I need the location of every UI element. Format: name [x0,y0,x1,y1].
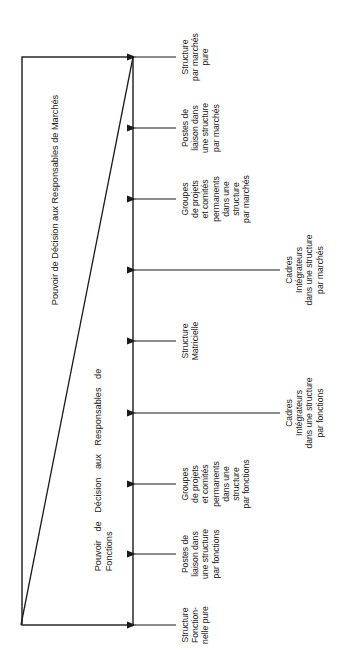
heading-functions: Pouvoir de Décision aux Responsables de … [93,369,115,572]
label-cadres-integrateurs-fonctions: Cadres Intégrateurs dans une structure p… [284,377,325,448]
decision-power-diagram: Pouvoir de Décision aux Responsables de … [0,0,341,672]
label-postes-liaison-marches: Postes de liaison dans une structure par… [180,103,221,153]
label-groupes-projets-marches: Groupes de projets et comités permanents… [180,175,251,223]
label-cadres-integrateurs-marches: Cadres Intégrateurs dans une structure p… [284,234,325,305]
label-groupes-projets-fonctions: Groupes de projets et comités permanents… [180,459,251,508]
label-postes-liaison-fonctions: Postes de liaison dans une structure par… [180,529,221,579]
label-structure-matricielle: Structure Matricielle [180,322,200,361]
diagonal-line [21,57,133,625]
label-structure-fonctionnelle-pure: Structure Fonction- nelle pure [180,606,211,644]
heading-markets: Pouvoir de Décision aux Responsables de … [50,95,61,305]
label-structure-marches-pure: Structure par marchés pure [180,33,211,81]
